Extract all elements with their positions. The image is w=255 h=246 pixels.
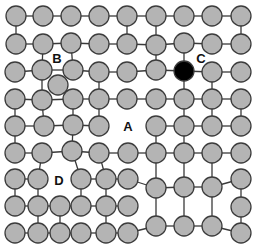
region-label-b: B (52, 51, 61, 66)
node (5, 223, 25, 243)
node (89, 34, 109, 54)
node (89, 143, 109, 163)
node (174, 89, 194, 109)
node (62, 141, 82, 161)
node (202, 177, 222, 197)
node (5, 89, 25, 109)
node (33, 6, 53, 26)
node (146, 89, 166, 109)
node (231, 62, 251, 82)
node (231, 197, 251, 217)
node (146, 216, 166, 236)
node (146, 6, 166, 26)
highlighted-node (174, 61, 194, 81)
node (89, 62, 109, 82)
node (231, 169, 251, 189)
node (202, 89, 222, 109)
node (96, 223, 116, 243)
node (34, 116, 54, 136)
node (5, 62, 25, 82)
node (174, 116, 194, 136)
node (231, 89, 251, 109)
node (5, 143, 25, 163)
node (174, 33, 194, 53)
node (118, 143, 138, 163)
node (202, 116, 222, 136)
node (96, 196, 116, 216)
node (33, 34, 53, 54)
node (71, 223, 91, 243)
node (146, 178, 166, 198)
node (89, 6, 109, 26)
node (146, 116, 166, 136)
node (63, 89, 83, 109)
node (71, 196, 91, 216)
node (118, 196, 138, 216)
node (50, 196, 70, 216)
node (6, 6, 26, 26)
node (146, 60, 166, 80)
node (5, 169, 25, 189)
region-label-d: D (54, 173, 63, 188)
node (231, 34, 251, 54)
node (63, 60, 83, 80)
node (117, 62, 137, 82)
region-label-c: C (196, 51, 206, 66)
node (6, 34, 26, 54)
node (117, 89, 137, 109)
node (32, 143, 52, 163)
node (174, 6, 194, 26)
node (89, 116, 109, 136)
node (146, 143, 166, 163)
node (117, 6, 137, 26)
node (117, 34, 137, 54)
node (174, 216, 194, 236)
node (231, 143, 251, 163)
node (32, 60, 52, 80)
node (174, 177, 194, 197)
node (5, 116, 25, 136)
node (28, 169, 48, 189)
node (202, 6, 222, 26)
node (63, 115, 83, 135)
node (28, 223, 48, 243)
node (28, 196, 48, 216)
node (146, 35, 166, 55)
node (174, 143, 194, 163)
node (202, 216, 222, 236)
region-label-a: A (123, 119, 133, 134)
lattice-diagram: B C A D (0, 0, 255, 246)
node (61, 6, 81, 26)
node (96, 169, 116, 189)
node (231, 223, 251, 243)
node (231, 116, 251, 136)
node (118, 169, 138, 189)
node (202, 143, 222, 163)
node (118, 223, 138, 243)
node (5, 196, 25, 216)
node (61, 33, 81, 53)
node (32, 90, 52, 110)
node (71, 169, 91, 189)
node (89, 89, 109, 109)
node (50, 223, 70, 243)
node (231, 6, 251, 26)
